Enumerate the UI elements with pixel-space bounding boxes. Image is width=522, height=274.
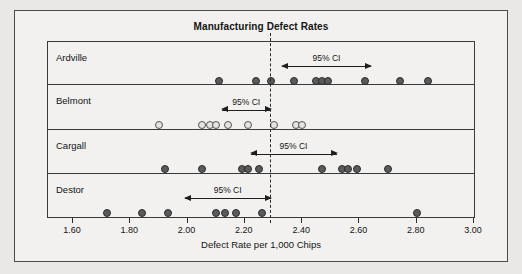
x-axis-label: Defect Rate per 1,000 Chips [15,239,507,250]
x-axis-tick [187,218,188,223]
data-point [215,77,223,85]
data-point [318,165,326,173]
reference-line [270,33,271,223]
data-point [384,165,392,173]
group-row: Ardville95% CI [47,41,475,85]
data-point [353,165,361,173]
x-axis-tick-label: 2.20 [235,225,253,235]
data-point [396,77,404,85]
group-label-ardville: Ardville [56,52,87,63]
x-axis-tick-label: 2.60 [350,225,368,235]
data-point [290,77,298,85]
confidence-interval-bar [185,198,271,199]
data-point [424,77,432,85]
x-axis-tick [129,218,130,223]
confidence-interval-bar [251,154,337,155]
group-label-destor: Destor [56,184,84,195]
chart-title: Manufacturing Defect Rates [15,21,507,32]
group-row: Cargall95% CI [47,130,475,174]
data-point [344,165,352,173]
data-point [361,77,369,85]
x-axis-tick-label: 2.80 [407,225,425,235]
data-point [138,209,146,217]
data-point [255,165,263,173]
data-point [244,165,252,173]
x-axis: 1.601.802.002.202.402.602.803.00 [47,218,475,219]
data-point [161,165,169,173]
arrow-left-icon [250,150,257,156]
x-axis-tick-label: 3.00 [464,225,482,235]
x-axis-tick [473,218,474,223]
data-point [270,121,278,129]
x-axis-tick [72,218,73,223]
x-axis-tick-label: 1.60 [63,225,81,235]
data-point [252,77,260,85]
x-axis-tick [416,218,417,223]
x-axis-tick-label: 2.00 [178,225,196,235]
data-point [155,121,163,129]
x-axis-tick [358,218,359,223]
arrow-right-icon [365,63,372,69]
plot-area: Ardville95% CIBelmont95% CICargall95% CI… [47,41,475,218]
data-point [298,121,306,129]
confidence-interval-label: 95% CI [232,97,260,107]
data-point [224,121,232,129]
confidence-interval-bar [222,110,271,111]
x-axis-tick-label: 2.40 [292,225,310,235]
group-label-belmont: Belmont [56,95,91,106]
data-point [267,77,275,85]
data-point [103,209,111,217]
confidence-interval-label: 95% CI [280,141,308,151]
data-point [164,209,172,217]
chart-figure: Manufacturing Defect Rates Ardville95% C… [14,10,508,262]
confidence-interval-label: 95% CI [313,53,341,63]
arrow-left-icon [281,63,288,69]
data-point [212,209,220,217]
data-point [413,209,421,217]
x-axis-tick [301,218,302,223]
group-label-cargall: Cargall [56,140,86,151]
group-row: Destor95% CI [47,174,475,218]
x-axis-tick-label: 1.80 [121,225,139,235]
confidence-interval-label: 95% CI [214,185,242,195]
data-point [198,165,206,173]
data-point [324,77,332,85]
data-point [232,209,240,217]
arrow-left-icon [184,195,191,201]
data-point [212,121,220,129]
data-point [258,209,266,217]
data-point [198,121,206,129]
arrow-left-icon [221,106,228,112]
confidence-interval-bar [282,66,371,67]
group-row: Belmont95% CI [47,85,475,129]
arrow-right-icon [331,150,338,156]
data-point [244,121,252,129]
x-axis-tick [244,218,245,223]
data-point [221,209,229,217]
